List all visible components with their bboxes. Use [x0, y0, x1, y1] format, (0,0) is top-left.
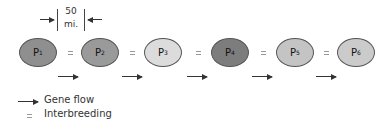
population-p5: P5 — [276, 38, 314, 67]
population-p4: P4 — [211, 38, 249, 67]
scale-value: 50 — [61, 6, 81, 16]
legend-interbreeding-label: Interbreeding — [44, 108, 112, 119]
gene-flow-arrow-icon — [252, 76, 272, 77]
scale-right-arrow-icon — [88, 19, 102, 20]
interbreeding-icon — [324, 51, 329, 55]
gene-flow-arrow-icon — [122, 76, 142, 77]
population-p6: P6 — [337, 38, 375, 67]
population-p3: P3 — [144, 38, 182, 67]
interbreeding-icon — [68, 51, 73, 55]
interbreeding-icon — [261, 51, 266, 55]
legend-gene-flow-label: Gene flow — [44, 94, 94, 105]
scale-right-bar — [84, 9, 85, 31]
population-p1: P1 — [19, 38, 57, 67]
gene-flow-arrow-icon — [187, 76, 207, 77]
scale-unit: mi. — [61, 19, 81, 29]
legend-gene-flow-arrow-icon — [18, 101, 38, 102]
gene-flow-arrow-icon — [58, 76, 78, 77]
scale-left-bar — [57, 9, 58, 31]
population-p2: P2 — [81, 38, 119, 67]
legend-interbreeding-icon — [27, 114, 32, 118]
interbreeding-icon — [130, 51, 135, 55]
gene-flow-arrow-icon — [316, 76, 336, 77]
interbreeding-icon — [196, 51, 201, 55]
scale-left-arrow-icon — [40, 19, 54, 20]
